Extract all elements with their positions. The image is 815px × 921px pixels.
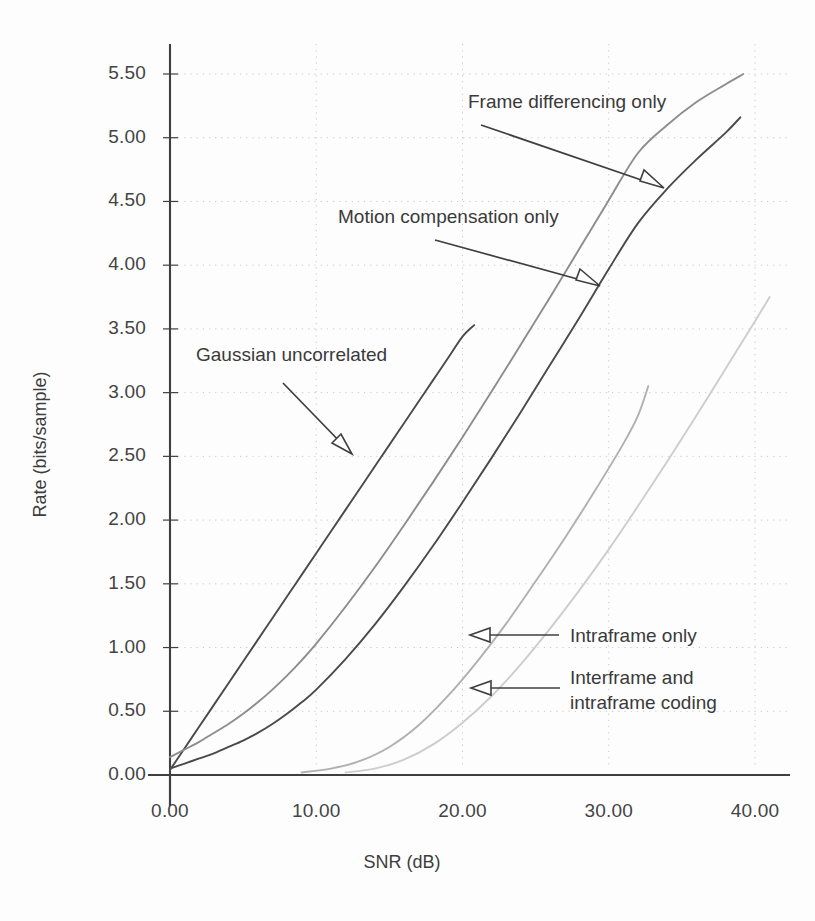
arrow-intraframe-only: [470, 628, 559, 642]
annotation-frame-differencing: Frame differencing only: [468, 90, 666, 114]
y-tick-label: 5.00: [60, 126, 146, 148]
y-tick-label: 2.50: [60, 444, 146, 466]
annotation-gaussian-uncorrelated: Gaussian uncorrelated: [196, 343, 387, 367]
data-series-line: [170, 74, 743, 757]
x-tick-label: 30.00: [554, 800, 664, 822]
y-tick-label: 0.50: [60, 699, 146, 721]
arrow-gaussian-uncorrelated: [283, 383, 352, 454]
y-tick-label: 5.50: [60, 62, 146, 84]
x-tick-label: 10.00: [261, 800, 371, 822]
x-tick-label: 40.00: [700, 800, 810, 822]
arrow-motion-compensation: [435, 240, 600, 286]
annotation-intraframe-only: Intraframe only: [570, 624, 697, 648]
y-tick-label: 3.50: [60, 317, 146, 339]
y-tick-label: 4.50: [60, 189, 146, 211]
annotation-motion-compensation: Motion compensation only: [338, 205, 559, 229]
x-tick-label: 20.00: [408, 800, 518, 822]
y-axis-title: Rate (bits/sample): [30, 325, 51, 565]
annotation-interframe-line1: Interframe and: [570, 666, 694, 690]
y-tick-label: 1.00: [60, 636, 146, 658]
grid-lines: [178, 44, 790, 768]
y-tick-label: 4.00: [60, 253, 146, 275]
x-axis-title: SNR (dB): [302, 852, 502, 873]
annotation-interframe-line2: intraframe coding: [570, 691, 717, 715]
x-tick-marks: [170, 775, 755, 790]
chart-figure: 0.000.501.001.502.002.503.003.504.004.50…: [0, 0, 815, 921]
y-tick-label: 1.50: [60, 572, 146, 594]
y-tick-label: 2.00: [60, 508, 146, 530]
y-tick-label: 0.00: [60, 763, 146, 785]
arrow-interframe-intraframe: [471, 681, 560, 695]
data-series-line: [170, 325, 474, 770]
y-tick-label: 3.00: [60, 381, 146, 403]
x-tick-label: 0.00: [115, 800, 225, 822]
